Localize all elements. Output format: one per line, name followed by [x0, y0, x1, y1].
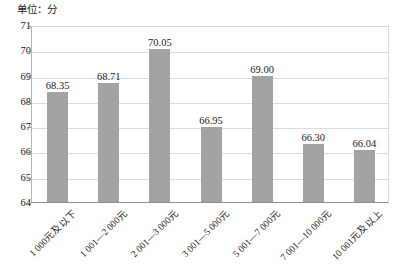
bar — [252, 76, 273, 202]
bar — [201, 127, 222, 202]
gridline — [32, 52, 388, 53]
chart-title: 单位：分 — [17, 3, 57, 16]
bar — [149, 49, 170, 202]
gridline — [32, 103, 388, 104]
bar — [303, 144, 324, 202]
bar-value-label: 70.05 — [130, 37, 190, 48]
bar — [354, 150, 375, 202]
x-axis: 1 000元及以下1 001—2 000元2 001—3 000元3 001—5… — [31, 204, 389, 280]
y-axis: 6465666768697071 — [0, 26, 31, 203]
bar-value-label: 69.00 — [232, 64, 292, 75]
bar — [98, 83, 119, 202]
bar-value-label: 66.95 — [181, 115, 241, 126]
bar-chart: 单位：分 6465666768697071 68.3568.7170.0566.… — [0, 0, 398, 280]
bar — [47, 92, 68, 202]
bar-value-label: 66.04 — [334, 138, 394, 149]
bar-value-label: 68.71 — [79, 71, 139, 82]
plot-area: 68.3568.7170.0566.9569.0066.3066.04 — [31, 26, 389, 203]
